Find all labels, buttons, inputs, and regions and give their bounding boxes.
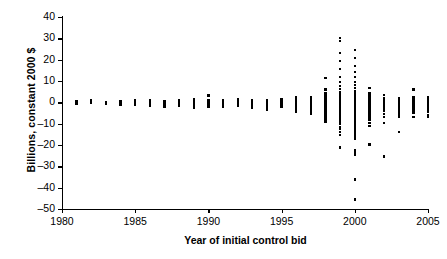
scatter-chart-figure: Billions, constant 2000 $ 403020100–10–2… (0, 0, 447, 259)
data-point (339, 131, 341, 133)
data-point (354, 76, 356, 78)
data-point (339, 81, 341, 83)
data-point (280, 106, 282, 108)
data-point (266, 108, 268, 110)
data-point (354, 71, 356, 73)
x-tick-label: 2005 (416, 215, 439, 227)
x-tick-mark (282, 209, 283, 213)
data-point (354, 198, 356, 200)
data-point (427, 111, 429, 113)
x-tick-label: 1985 (124, 215, 147, 227)
data-point (207, 105, 209, 107)
y-tick-mark (58, 17, 62, 18)
data-point (383, 116, 385, 118)
data-point (310, 112, 312, 114)
data-point (251, 107, 253, 109)
data-point (354, 153, 356, 155)
data-point (193, 106, 195, 108)
x-tick-label: 1995 (270, 215, 293, 227)
y-tick-label: 10 (43, 74, 55, 86)
data-point (368, 115, 370, 117)
data-point (90, 102, 92, 104)
data-point (354, 178, 356, 180)
y-tick-label: –30 (37, 159, 55, 171)
data-point (412, 112, 414, 114)
plot-area: 403020100–10–20–30–40–50 198019851990199… (62, 17, 428, 209)
data-point (354, 57, 356, 59)
data-point (354, 49, 356, 51)
data-point (383, 94, 385, 96)
y-tick-mark (58, 145, 62, 146)
data-point (383, 122, 385, 124)
data-point (237, 105, 239, 107)
data-point (295, 110, 297, 112)
data-point (207, 94, 209, 96)
data-point (354, 134, 356, 136)
x-tick-mark (208, 209, 209, 213)
y-tick-label: 40 (43, 10, 55, 22)
data-point (324, 77, 326, 79)
data-point (222, 105, 224, 107)
x-tick-mark (62, 209, 63, 213)
data-point (383, 113, 385, 115)
data-point (163, 106, 165, 108)
data-point (368, 143, 370, 145)
data-point (119, 104, 121, 106)
y-tick-label: –50 (37, 202, 55, 214)
data-point (383, 155, 385, 157)
data-point (398, 131, 400, 133)
data-point (90, 99, 92, 101)
data-point (368, 92, 370, 94)
y-tick-mark (58, 81, 62, 82)
y-tick-label: –20 (37, 138, 55, 150)
data-point (339, 146, 341, 148)
y-tick-label: 0 (49, 95, 55, 107)
data-point (339, 85, 341, 87)
data-point (105, 103, 107, 105)
data-point (75, 103, 77, 105)
y-axis-title: Billions, constant 2000 $ (25, 15, 37, 205)
data-point (354, 65, 356, 67)
data-point (368, 125, 370, 127)
data-point (324, 88, 326, 90)
data-point (149, 105, 151, 107)
data-point (178, 105, 180, 107)
data-point (398, 115, 400, 117)
data-point (354, 81, 356, 83)
y-tick-label: –40 (37, 181, 55, 193)
data-point (339, 37, 341, 39)
data-point (354, 131, 356, 133)
data-point (354, 84, 356, 86)
data-point (412, 88, 414, 90)
x-tick-mark (428, 209, 429, 213)
x-tick-label: 2000 (343, 215, 366, 227)
data-point (339, 52, 341, 54)
data-point (134, 103, 136, 105)
y-tick-mark (58, 124, 62, 125)
data-point (427, 116, 429, 118)
data-point (398, 112, 400, 114)
data-point (412, 116, 414, 118)
data-point (368, 87, 370, 89)
data-point (324, 117, 326, 119)
y-tick-mark (58, 188, 62, 189)
y-tick-label: 20 (43, 53, 55, 65)
x-tick-mark (135, 209, 136, 213)
data-point (339, 60, 341, 62)
data-point (339, 68, 341, 70)
x-tick-label: 1980 (50, 215, 73, 227)
data-point (324, 120, 326, 122)
data-point (339, 40, 341, 42)
y-tick-mark (58, 60, 62, 61)
x-tick-label: 1990 (197, 215, 220, 227)
y-tick-label: 30 (43, 31, 55, 43)
y-tick-label: –10 (37, 117, 55, 129)
data-point (339, 76, 341, 78)
data-point (354, 137, 356, 139)
y-tick-mark (58, 166, 62, 167)
data-point (339, 134, 341, 136)
x-tick-mark (355, 209, 356, 213)
data-point (105, 101, 107, 103)
data-point (368, 118, 370, 120)
y-tick-mark (58, 38, 62, 39)
